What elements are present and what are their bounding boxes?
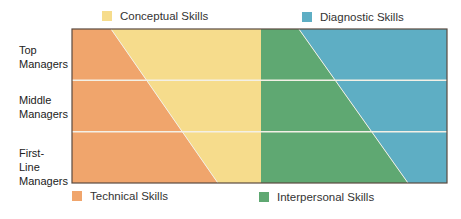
legend-conceptual: Conceptual Skills (102, 10, 208, 22)
level-label-first-line-text: First-Line Managers (19, 147, 68, 187)
legend-label-technical: Technical Skills (90, 190, 168, 202)
legend-swatch-technical (72, 191, 82, 201)
skills-chart (0, 0, 461, 219)
legend-swatch-diagnostic (302, 12, 312, 22)
level-label-first-line: First-Line Managers (19, 146, 64, 188)
level-label-middle-text: Middle Managers (19, 94, 68, 120)
legend-technical: Technical Skills (72, 190, 168, 202)
level-label-middle: Middle Managers (19, 93, 64, 121)
legend-interpersonal: Interpersonal Skills (259, 191, 374, 203)
level-label-top-text: Top Managers (19, 44, 68, 70)
level-label-top: Top Managers (19, 43, 64, 71)
legend-swatch-interpersonal (259, 192, 269, 202)
legend-swatch-conceptual (102, 11, 112, 21)
legend-label-diagnostic: Diagnostic Skills (320, 11, 404, 23)
legend-label-conceptual: Conceptual Skills (120, 10, 208, 22)
legend-diagnostic: Diagnostic Skills (302, 11, 404, 23)
legend-label-interpersonal: Interpersonal Skills (277, 191, 374, 203)
